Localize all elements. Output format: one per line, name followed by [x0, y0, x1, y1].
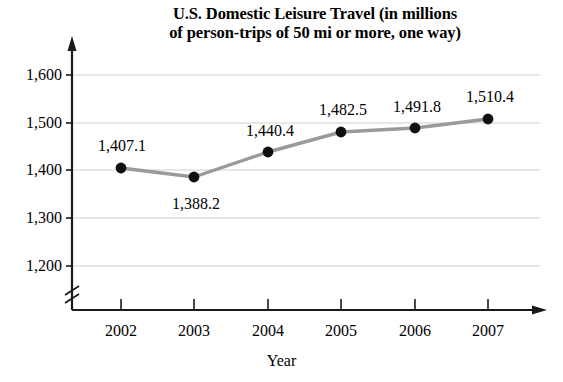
xtick-label-2003: 2003: [159, 322, 229, 340]
xtick-label-2002: 2002: [86, 322, 156, 340]
xtick-label-2006: 2006: [380, 322, 450, 340]
x-axis-title: Year: [0, 352, 563, 370]
y-axis-arrowhead: [68, 36, 77, 51]
data-label-2007: 1,510.4: [435, 89, 545, 105]
chart-figure: U.S. Domestic Leisure Travel (in million…: [0, 0, 563, 382]
ytick-label-1400: 1,400: [2, 162, 62, 178]
data-point-2004: [263, 147, 274, 158]
xtick-label-2007: 2007: [453, 322, 523, 340]
ytick-label-1500-wrap: 1,500: [0, 115, 62, 131]
data-label-2003: 1,388.2: [141, 196, 251, 212]
ytick-label-1600: 1,600: [2, 67, 62, 83]
data-label-2004: 1,440.4: [215, 123, 325, 139]
data-point-2005: [336, 127, 347, 138]
ytick-label-1500: 1,500: [2, 115, 62, 131]
ytick-label-1300: 1,300: [2, 210, 62, 226]
ytick-label-1200-wrap: 1,200: [0, 258, 62, 274]
y-axis: [65, 36, 79, 310]
data-point-2003: [189, 172, 200, 183]
ytick-label-1300-wrap: 1,300: [0, 210, 62, 226]
ytick-label-1600-wrap: 1,600: [0, 67, 62, 83]
data-point-2002: [116, 163, 127, 174]
data-label-2002: 1,407.1: [67, 138, 177, 154]
xtick-label-2005: 2005: [306, 322, 376, 340]
ytick-label-1200: 1,200: [2, 258, 62, 274]
xtick-label-2004: 2004: [233, 322, 303, 340]
data-point-2007: [483, 114, 494, 125]
ytick-label-1400-wrap: 1,400: [0, 162, 62, 178]
x-axis: [72, 299, 547, 315]
x-axis-arrowhead: [532, 306, 547, 315]
data-point-2006: [410, 123, 421, 134]
